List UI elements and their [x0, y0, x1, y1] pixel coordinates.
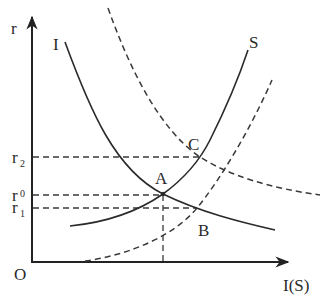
is-diagram: r O I(S) r 2 r 0 r 1 I S A B C [0, 0, 330, 302]
curve-i-label: I [53, 35, 59, 54]
tick-r1-sub: 1 [20, 208, 25, 219]
tick-r0-sub: 0 [20, 188, 25, 199]
curve-s-label: S [249, 33, 258, 52]
curve-s [70, 50, 248, 226]
tick-r2-sub: 2 [20, 158, 25, 169]
point-b-label: B [198, 221, 209, 240]
y-tick-r2: r 2 [12, 148, 25, 169]
curve-i-shifted [108, 8, 320, 195]
tick-r2-base: r [12, 148, 18, 167]
tick-r1-base: r [12, 198, 18, 217]
x-axis-label: I(S) [283, 276, 309, 295]
curve-s-shifted [85, 80, 272, 261]
point-a-marker [161, 192, 165, 196]
origin-label: O [14, 265, 26, 284]
y-axis-label: r [11, 19, 17, 38]
point-a-label: A [155, 169, 168, 188]
point-c-label: C [188, 135, 199, 154]
y-tick-r1: r 1 [12, 198, 25, 219]
